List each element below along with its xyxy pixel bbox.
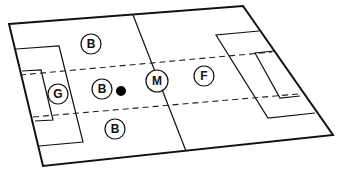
player-token-f: F (194, 66, 214, 86)
player-token-b-mid: B (92, 79, 112, 99)
player-label: M (152, 74, 162, 88)
player-label: B (111, 122, 120, 136)
right-goal-box (255, 51, 300, 98)
player-label: F (200, 69, 207, 83)
player-token-m: M (146, 70, 168, 92)
player-token-b-top: B (81, 34, 101, 54)
player-token-b-bottom: B (105, 119, 125, 139)
soccer-field-diagram: B G B M F B (0, 0, 342, 171)
player-label: B (98, 82, 107, 96)
right-penalty-box (216, 31, 315, 118)
ball-icon (116, 86, 126, 96)
player-token-g: G (48, 84, 68, 104)
player-label: B (87, 37, 96, 51)
player-label: G (53, 87, 62, 101)
